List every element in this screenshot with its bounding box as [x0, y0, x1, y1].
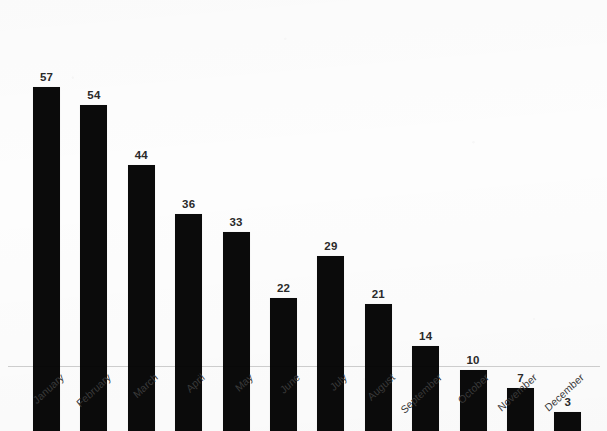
bar-value-label: 22: [260, 282, 307, 294]
plot-area: 57 54 44 36 33 22 29 21: [0, 0, 607, 431]
bar-group: 33: [213, 232, 260, 431]
bar-value-label: 36: [165, 198, 212, 210]
bar-value-label: 10: [450, 354, 497, 366]
bar-group: 36: [165, 214, 212, 431]
bar-group: 3: [544, 412, 591, 431]
bar-value-label: 21: [355, 288, 402, 300]
bar-group: 29: [307, 256, 354, 431]
bar-value-label: 57: [23, 71, 70, 83]
bar-value-label: 33: [213, 216, 260, 228]
x-axis-line: [8, 366, 600, 367]
bar-group: 22: [260, 298, 307, 431]
bar-value-label: 29: [307, 240, 354, 252]
bar-rect: [554, 412, 581, 431]
bar-rect: [175, 214, 202, 431]
bar-rect: [317, 256, 344, 431]
bar-rect: [365, 304, 392, 431]
bar-value-label: 44: [118, 149, 165, 161]
bar-rect: [223, 232, 250, 431]
bar-chart-figure: 57 54 44 36 33 22 29 21: [0, 0, 607, 431]
bar-value-label: 14: [402, 330, 449, 342]
bar-value-label: 54: [70, 89, 117, 101]
bar-rect: [270, 298, 297, 431]
bar-group: 21: [355, 304, 402, 431]
